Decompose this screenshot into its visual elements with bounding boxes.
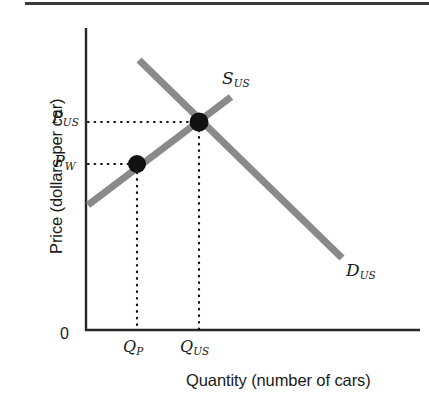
y-tick-price-w-sub: W	[65, 160, 76, 172]
y-tick-price-us-var: P	[52, 108, 63, 127]
x-tick-label-quantity-us: QUS	[180, 339, 209, 356]
y-tick-price-w-var: P	[54, 152, 65, 171]
x-tick-quantity-us-sub: US	[193, 345, 209, 357]
y-axis-title: Price (dollars per car)	[48, 56, 65, 296]
demand-curve-label-sub: US	[360, 269, 376, 281]
y-tick-label-price-us: PUS	[52, 110, 79, 127]
y-tick-price-us-sub: US	[63, 116, 79, 128]
origin-label: 0	[60, 326, 69, 342]
supply-demand-figure: Price (dollars per car) Quantity (number…	[0, 0, 429, 412]
world-price-point-marker	[128, 155, 146, 173]
supply-curve-label-sub: US	[234, 77, 250, 89]
demand-curve-label-var: D	[346, 260, 360, 280]
equilibrium-point-marker	[190, 113, 209, 132]
supply-curve-label-var: S	[222, 68, 234, 88]
x-axis-title: Quantity (number of cars)	[186, 372, 371, 389]
x-tick-quantity-us-var: Q	[180, 337, 193, 356]
supply-curve-label: SUS	[222, 70, 250, 88]
x-tick-quantity-p-var: Q	[123, 337, 136, 356]
demand-curve-label: DUS	[346, 262, 376, 280]
demand-curve	[139, 60, 342, 258]
x-tick-quantity-p-sub: P	[136, 345, 143, 357]
y-tick-label-price-w: PW	[54, 154, 76, 171]
x-tick-label-quantity-p: QP	[123, 339, 143, 356]
supply-curve	[88, 97, 231, 205]
